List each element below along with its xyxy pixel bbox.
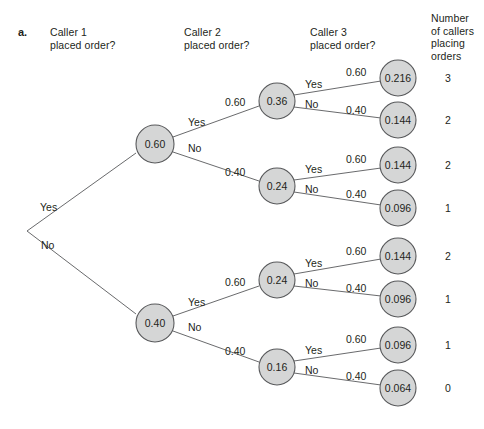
edge-label-040-lower-prob: 0.40 <box>225 345 246 357</box>
node-024-lower-value: 0.24 <box>267 274 288 286</box>
leaf-count-3: 2 <box>445 159 451 171</box>
edge-label-060-upper-yes: Yes <box>188 116 205 128</box>
leaf-count-1: 3 <box>445 72 451 84</box>
edge-label-016-yes-prob: 0.60 <box>346 333 367 345</box>
edge-root-yes <box>27 153 136 231</box>
edge-040-no <box>173 331 259 362</box>
edge-label-024a-yes-prob: 0.60 <box>346 153 367 165</box>
leaf-count-8: 0 <box>445 382 451 394</box>
root-branches <box>27 153 136 314</box>
edge-label-024a-no: No <box>305 183 319 195</box>
leaf-count-2: 2 <box>445 114 451 126</box>
leaf-count-4: 1 <box>445 202 451 214</box>
leaf-node-5-value: 0.144 <box>385 250 411 262</box>
node-016-value: 0.16 <box>267 361 288 373</box>
edge-label-040-upper-yes: Yes <box>188 296 205 308</box>
level1-edge-labels: 0.60 Yes No 0.40 0.60 Yes No 0.40 <box>188 96 246 357</box>
edge-label-036-yes-prob: 0.60 <box>346 66 367 78</box>
edge-060-yes <box>173 106 259 137</box>
node-024-upper-value: 0.24 <box>267 180 288 192</box>
root-no-label: No <box>41 239 55 251</box>
edge-label-036-yes: Yes <box>305 78 322 90</box>
leaf-node-4-value: 0.096 <box>385 202 411 214</box>
node-060-value: 0.60 <box>145 138 166 150</box>
edge-060-no <box>173 152 259 181</box>
edge-label-024a-no-prob: 0.40 <box>346 188 367 200</box>
edge-label-024b-yes: Yes <box>305 257 322 269</box>
leaf-count-6: 1 <box>445 293 451 305</box>
edge-label-016-no-prob: 0.40 <box>346 370 367 382</box>
leaf-count-7: 1 <box>445 339 451 351</box>
edge-label-040-lower-no: No <box>188 321 202 333</box>
leaf-node-group: 0.216 3 0.144 2 0.144 2 0.096 1 0.144 2 … <box>380 60 451 406</box>
edge-label-024b-no: No <box>305 277 319 289</box>
level2-node-group: 0.36 0.24 0.24 0.16 <box>259 83 295 385</box>
level1-node-group: 0.60 0.40 <box>136 125 174 342</box>
leaf-node-1-value: 0.216 <box>385 72 411 84</box>
leaf-node-8-value: 0.064 <box>385 382 411 394</box>
edge-label-016-no: No <box>305 364 319 376</box>
edge-label-016-yes: Yes <box>305 344 322 356</box>
edge-label-060-lower-prob: 0.40 <box>225 166 246 178</box>
leaf-node-7-value: 0.096 <box>385 339 411 351</box>
level2-branches <box>294 81 381 385</box>
edge-label-024a-yes: Yes <box>305 163 322 175</box>
root-branch-labels: Yes No <box>40 201 57 251</box>
leaf-count-5: 2 <box>445 250 451 262</box>
probability-tree: Yes No 0.60 Yes No 0.40 0.60 Yes No 0.40… <box>0 0 484 429</box>
root-yes-label: Yes <box>40 201 57 213</box>
leaf-node-2-value: 0.144 <box>385 114 411 126</box>
edge-label-060-upper-prob: 0.60 <box>225 96 246 108</box>
edge-label-036-no-prob: 0.40 <box>346 104 367 116</box>
leaf-node-3-value: 0.144 <box>385 159 411 171</box>
leaf-node-6-value: 0.096 <box>385 293 411 305</box>
node-040-value: 0.40 <box>145 317 166 329</box>
level1-branches <box>173 106 259 362</box>
level2-edge-labels: Yes 0.60 No 0.40 Yes 0.60 No 0.40 Yes 0.… <box>305 66 367 382</box>
node-036-value: 0.36 <box>267 95 288 107</box>
edge-label-024b-yes-prob: 0.60 <box>346 245 367 257</box>
edge-label-036-no: No <box>305 98 319 110</box>
figure-canvas: a. Caller 1 placed order? Caller 2 place… <box>0 0 484 429</box>
edge-label-024b-no-prob: 0.40 <box>346 282 367 294</box>
edge-040-yes <box>173 286 259 316</box>
edge-label-060-upper-no: No <box>188 142 202 154</box>
edge-label-040-upper-prob: 0.60 <box>225 276 246 288</box>
